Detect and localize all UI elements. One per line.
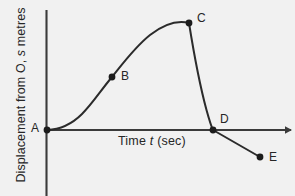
curve-segment-c-to-d (189, 23, 213, 130)
x-axis-label: Time t (sec) (118, 134, 186, 148)
point-label-a: A (31, 122, 39, 134)
data-point-d (210, 127, 217, 134)
point-label-c: C (197, 12, 206, 24)
chart-canvas (0, 0, 295, 196)
data-point-b (109, 74, 116, 81)
y-axis-label-variable: s (14, 50, 28, 56)
curve-segment-d-to-e (213, 130, 260, 157)
data-point-e (257, 154, 264, 161)
point-label-b: B (121, 70, 129, 82)
y-axis-label-suffix: metres (14, 7, 28, 49)
curve-segment-a-to-c (47, 22, 189, 130)
x-axis-arrowhead (285, 126, 292, 134)
y-axis-label-prefix: Displacement from O, (14, 56, 28, 182)
x-axis-label-suffix: (sec) (153, 134, 185, 148)
data-point-a (44, 127, 51, 134)
x-axis-label-prefix: Time (118, 134, 150, 148)
displacement-time-graph: A B C D E Time t (sec) Displacement from… (0, 0, 295, 196)
data-point-c (186, 20, 193, 27)
point-label-d: D (220, 113, 229, 125)
point-label-e: E (269, 151, 277, 163)
y-axis-label: Displacement from O, s metres (14, 0, 28, 195)
